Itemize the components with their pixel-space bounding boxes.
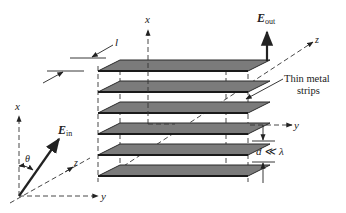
length-label: l [115, 36, 118, 48]
z-axis-left-label: z [73, 157, 78, 168]
theta-label: θ [25, 153, 30, 164]
spacing-label: d ≪ λ [256, 145, 284, 157]
spacing-dimension: d ≪ λ [252, 125, 284, 183]
thin-metal-label-line1: Thin metal [284, 73, 330, 84]
strip-6 [98, 165, 270, 176]
metal-strips [98, 60, 270, 176]
z-axis-stack-label: z [314, 34, 319, 45]
strip-4 [98, 123, 270, 134]
strip-2 [98, 81, 270, 92]
strip-1 [98, 60, 270, 71]
theta-arc [19, 166, 33, 170]
incident-field-axes: x y z Ein θ [10, 100, 106, 203]
polarizer-diagram: x y z Eout Thin metal strips d ≪ λ l x y… [0, 0, 346, 213]
x-axis-stack-label: x [144, 13, 150, 25]
e-in-arrow [19, 139, 59, 196]
y-axis-left-label: y [100, 190, 106, 202]
strip-3 [98, 102, 270, 113]
length-dimension: l [43, 36, 118, 83]
y-axis-stack-label: y [293, 119, 299, 131]
x-axis-left-label: x [14, 100, 20, 112]
strip-5 [98, 144, 270, 155]
e-out-label: Eout [256, 11, 276, 26]
e-in-label: Ein [57, 123, 72, 138]
thin-metal-label-line2: strips [297, 85, 320, 96]
